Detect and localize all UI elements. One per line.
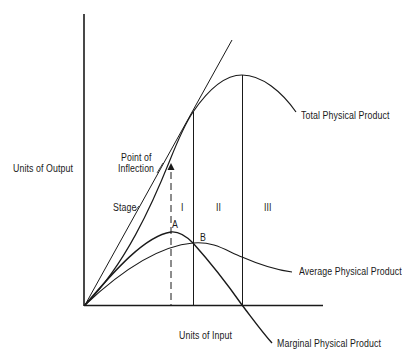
stage-iii-label: III — [264, 202, 272, 213]
inflection-leader — [157, 163, 163, 173]
marginal-physical-product-label: Marginal Physical Product — [277, 338, 381, 349]
y-axis-label: Units of Output — [13, 163, 73, 174]
stage-i-label: I — [181, 202, 184, 213]
marginal-physical-product-curve — [85, 232, 272, 343]
production-diagram — [0, 0, 418, 361]
total-physical-product-label: Total Physical Product — [301, 110, 390, 121]
point-b-label: B — [200, 232, 206, 243]
average-physical-product-label: Average Physical Product — [299, 266, 402, 277]
average-physical-product-curve — [85, 243, 292, 305]
point-a-label: A — [172, 219, 178, 230]
x-axis-label: Units of Input — [179, 330, 232, 341]
point-of-inflection-label-line2: Inflection — [118, 163, 154, 174]
tangent-ray — [85, 40, 232, 305]
stage-ii-label: II — [216, 202, 221, 213]
stage-label: Stage — [113, 202, 136, 213]
point-of-inflection-label-line1: Point of — [121, 152, 152, 163]
